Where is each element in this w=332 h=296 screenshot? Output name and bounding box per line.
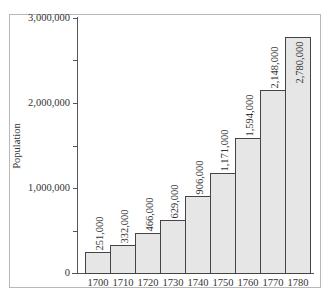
y-tick [73, 18, 78, 19]
x-tick-label: 1770 [260, 277, 286, 288]
y-tick [73, 231, 78, 232]
y-tick [73, 146, 78, 147]
bar-value-label: 1,171,000 [218, 129, 229, 171]
x-tick-label: 1740 [185, 277, 211, 288]
x-tick-label: 1760 [235, 277, 261, 288]
bar-1730 [160, 220, 186, 274]
y-tick [73, 60, 78, 61]
x-tick-label: 1730 [160, 277, 186, 288]
y-tick-label: 0 [65, 267, 70, 279]
bar-value-label: 2,780,000 [293, 41, 304, 83]
x-tick-label: 1720 [135, 277, 161, 288]
bar-1740 [185, 196, 211, 274]
bar-1750 [210, 173, 236, 274]
bar-value-label: 466,000 [143, 197, 154, 231]
x-tick-label: 1710 [110, 277, 136, 288]
bar-1770 [260, 90, 286, 274]
y-tick [73, 273, 78, 274]
bar-1720 [135, 233, 161, 274]
bar-1710 [110, 245, 136, 274]
x-tick-label: 1780 [285, 277, 311, 288]
bar-value-label: 2,148,000 [268, 46, 279, 88]
bar-value-label: 332,000 [118, 209, 129, 243]
y-tick-label: 1,000,000 [28, 182, 70, 194]
bar-1700 [85, 252, 111, 274]
y-tick-label: 2,000,000 [28, 97, 70, 109]
y-axis-label: Population [11, 123, 22, 169]
y-tick [73, 103, 78, 104]
x-tick-label: 1700 [85, 277, 111, 288]
bar-1760 [235, 138, 261, 274]
bar-value-label: 1,594,000 [243, 94, 254, 136]
bar-value-label: 251,000 [93, 216, 104, 250]
y-tick [73, 188, 78, 189]
x-tick-label: 1750 [210, 277, 236, 288]
bar-value-label: 906,000 [193, 160, 204, 194]
bar-value-label: 629,000 [168, 184, 179, 218]
y-tick-label: 3,000,000 [28, 12, 70, 24]
